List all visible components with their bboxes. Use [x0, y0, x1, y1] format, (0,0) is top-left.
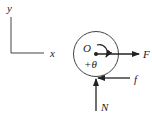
- x-axis-label: x: [49, 47, 55, 59]
- force-N: N: [96, 79, 109, 113]
- force-f-label: f: [134, 73, 139, 85]
- force-F: F: [96, 48, 150, 60]
- force-F-label: F: [142, 48, 150, 60]
- y-axis-label: y: [6, 2, 12, 14]
- force-N-label: N: [100, 101, 109, 113]
- rotation-arrow-icon: [97, 45, 107, 57]
- free-body-diagram: y x O +θ F f N: [0, 0, 152, 118]
- center-label: O: [83, 42, 91, 54]
- rotation-label: +θ: [84, 58, 97, 70]
- coordinate-axes: y x: [6, 2, 55, 59]
